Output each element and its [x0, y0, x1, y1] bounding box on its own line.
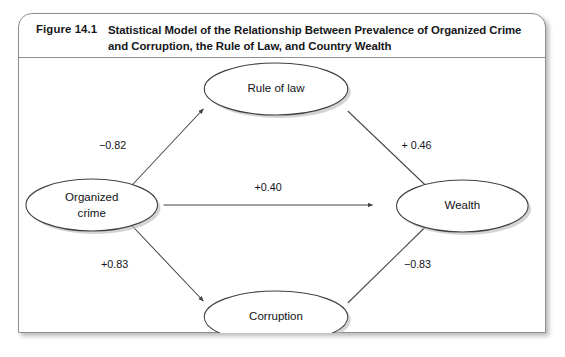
edge-organized-crime-to-rule-of-law	[127, 109, 204, 191]
node-rule-of-law: Rule of law	[204, 63, 350, 118]
node-label-organized-crime-line1: Organized	[65, 191, 118, 203]
diagram-canvas: Rule of law Organized crime Wealth Corru…	[19, 58, 545, 333]
figure-number-label: Figure 14.1	[36, 23, 97, 35]
figure-card: Figure 14.1 Statistical Model of the Rel…	[18, 13, 546, 333]
edge-label-corruption-wealth: −0.83	[404, 258, 431, 270]
node-wealth: Wealth	[397, 180, 531, 235]
node-label-wealth: Wealth	[444, 199, 480, 211]
figure-title: Statistical Model of the Relationship Be…	[108, 23, 531, 54]
edge-label-organized-crime-wealth: +0.40	[254, 181, 281, 193]
edge-label-organized-crime-corruption: +0.83	[101, 258, 128, 270]
node-label-corruption: Corruption	[249, 310, 303, 322]
edge-label-organized-crime-rule-of-law: −0.82	[99, 139, 126, 151]
figure-caption: Figure 14.1 Statistical Model of the Rel…	[19, 14, 545, 58]
edge-organized-crime-to-corruption	[127, 220, 204, 301]
node-organized-crime: Organized crime	[26, 179, 160, 234]
node-label-rule-of-law: Rule of law	[247, 82, 305, 94]
path-diagram: Rule of law Organized crime Wealth Corru…	[19, 58, 545, 333]
node-label-organized-crime-line2: crime	[78, 207, 106, 219]
node-corruption: Corruption	[204, 291, 350, 333]
edge-label-rule-of-law-wealth: + 0.46	[401, 139, 431, 151]
